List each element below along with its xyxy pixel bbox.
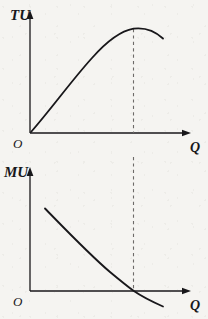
bottom-chart-x-axis <box>30 288 191 295</box>
total-utility-curve <box>31 28 163 132</box>
top-chart-y-axis <box>27 10 34 133</box>
top-origin-label: O <box>13 136 23 151</box>
top-q-axis-label: Q <box>190 140 200 155</box>
top-chart-x-axis <box>30 130 191 137</box>
tu-axis-label: TU <box>10 7 31 23</box>
bottom-chart-y-axis <box>27 167 34 291</box>
bottom-chart-marginal-utility: MU O Q <box>3 157 200 313</box>
bottom-q-axis-label: Q <box>190 298 200 313</box>
marginal-utility-curve <box>45 209 163 307</box>
utility-curves-figure: TU O Q MU O Q <box>0 0 208 319</box>
bottom-origin-label: O <box>13 294 23 309</box>
top-chart-total-utility: TU O Q <box>10 7 200 155</box>
mu-axis-label: MU <box>3 164 29 180</box>
